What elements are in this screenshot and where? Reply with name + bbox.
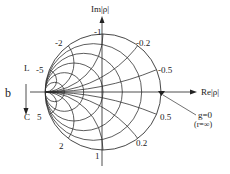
capacitive-label: C	[24, 112, 30, 122]
smith-chart: Im|ρ| Re|ρ| b L C g=0 (r=∞) -1 -2 -5 -0.…	[0, 0, 230, 174]
b-arc	[0, 92, 230, 174]
b-label-neg2: -2	[55, 38, 63, 48]
imag-axis-arrow-icon	[100, 16, 105, 23]
b-label-pos5: 5	[37, 112, 42, 122]
b-label-pos2: 2	[59, 141, 64, 151]
b-arc	[0, 0, 230, 92]
g-zero-label: g=0	[198, 110, 213, 120]
b-label-neg0.5: -0.5	[158, 65, 173, 75]
re-axis-label: Re|ρ|	[201, 87, 219, 97]
b-label-neg0.2: -0.2	[136, 38, 150, 48]
r-infinity-label: (r=∞)	[194, 120, 213, 129]
b-label-neg5: -5	[36, 65, 44, 75]
b-label-pos1: 1	[95, 151, 100, 161]
b-arc	[0, 0, 103, 92]
im-axis-label: Im|ρ|	[91, 4, 109, 14]
inductive-label: L	[24, 63, 30, 73]
b-axis-label: b	[5, 86, 11, 100]
b-label-pos0.2: 0.2	[136, 138, 147, 148]
b-arc	[0, 92, 103, 174]
b-label-neg1: -1	[94, 27, 102, 37]
b-label-pos0.5: 0.5	[160, 112, 172, 122]
real-axis-arrow-icon	[190, 90, 197, 95]
chart-grid	[0, 0, 230, 174]
